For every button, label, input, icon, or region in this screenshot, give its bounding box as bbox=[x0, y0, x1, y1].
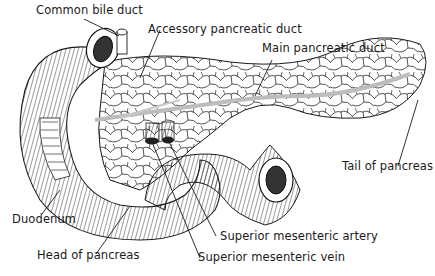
label-main-pancreatic-duct: Main pancreatic duct bbox=[262, 42, 385, 55]
label-tail-of-pancreas: Tail of pancreas bbox=[342, 160, 433, 173]
pancreas-diagram: Common bile duct Accessory pancreatic du… bbox=[0, 0, 435, 276]
label-common-bile-duct: Common bile duct bbox=[36, 4, 143, 17]
label-duodenum: Duodenum bbox=[12, 213, 76, 226]
label-head-of-pancreas: Head of pancreas bbox=[37, 249, 140, 262]
label-superior-mesenteric-vein: Superior mesenteric vein bbox=[198, 251, 345, 264]
label-accessory-pancreatic-duct: Accessory pancreatic duct bbox=[148, 23, 302, 36]
label-superior-mesenteric-artery: Superior mesenteric artery bbox=[220, 230, 378, 243]
